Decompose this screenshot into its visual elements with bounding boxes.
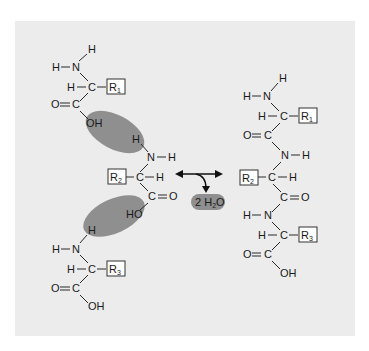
svg-text:C: C (72, 98, 80, 110)
svg-text:N: N (147, 151, 155, 163)
svg-text:H: H (52, 61, 60, 73)
svg-text:C: C (136, 171, 144, 183)
water-highlight-1 (79, 102, 151, 162)
svg-text:H: H (52, 243, 60, 255)
svg-text:H: H (132, 133, 140, 145)
svg-text:N: N (72, 61, 80, 73)
water-byproduct-badge: 2 H2O (191, 194, 225, 210)
svg-text:O: O (169, 190, 178, 202)
double-headed-arrow-icon (175, 170, 223, 193)
svg-text:2 H2O: 2 H2O (195, 196, 225, 209)
svg-text:H: H (156, 171, 164, 183)
svg-text:C: C (280, 191, 288, 203)
svg-text:H: H (67, 263, 75, 275)
svg-text:C: C (72, 282, 80, 294)
svg-text:H: H (88, 224, 96, 236)
svg-text:C: C (264, 248, 272, 260)
svg-text:OH: OH (88, 300, 105, 312)
svg-text:H: H (302, 149, 310, 161)
svg-text:N: N (72, 243, 80, 255)
svg-text:N: N (281, 149, 289, 161)
svg-text:H: H (168, 151, 176, 163)
svg-text:C: C (280, 229, 288, 241)
svg-text:C: C (268, 171, 276, 183)
svg-text:H: H (243, 90, 251, 102)
svg-text:H: H (289, 171, 297, 183)
svg-text:C: C (280, 110, 288, 122)
svg-text:N: N (264, 209, 272, 221)
svg-text:H: H (67, 81, 75, 93)
svg-text:H: H (258, 110, 266, 122)
svg-text:O: O (51, 98, 60, 110)
tripeptide-product: H H N H C R1 O C N H R2 C H C O H N (240, 72, 317, 279)
svg-text:HO: HO (126, 208, 143, 220)
svg-text:H: H (279, 72, 287, 84)
svg-text:H: H (88, 43, 96, 55)
svg-text:C: C (88, 81, 96, 93)
svg-text:OH: OH (86, 117, 103, 129)
svg-text:O: O (243, 129, 252, 141)
reaction-diagram: H H N H C R1 O C OH H N H R2 C H C (0, 0, 369, 351)
svg-text:N: N (263, 90, 271, 102)
svg-text:C: C (148, 190, 156, 202)
svg-text:O: O (301, 191, 310, 203)
svg-text:C: C (88, 263, 96, 275)
svg-text:OH: OH (280, 267, 297, 279)
svg-text:C: C (264, 129, 272, 141)
amino-acid-3: H H N H C R3 O C OH (51, 224, 125, 312)
svg-text:H: H (258, 229, 266, 241)
svg-text:H: H (243, 209, 251, 221)
svg-text:O: O (51, 282, 60, 294)
svg-text:O: O (243, 248, 252, 260)
